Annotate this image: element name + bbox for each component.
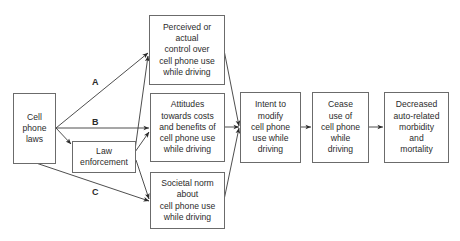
arrow-laws-to-enforcement: [56, 128, 71, 144]
node-intent-to-modify: Intent to modify cell phone use while dr…: [240, 92, 301, 163]
arrow-enforcement-to-norm: [136, 160, 149, 199]
node-law-enforcement: Law enforcement: [72, 141, 136, 173]
arrow-norm-to-intent: [224, 128, 239, 200]
node-perceived-control: Perceived or actual control over cell ph…: [149, 15, 225, 85]
edge-label-b: B: [92, 117, 99, 127]
node-cease-use: Cease use of cell phone while driving: [312, 92, 369, 163]
edge-label-c: C: [92, 187, 99, 197]
node-societal-norm: Societal norm about cell phone use while…: [150, 172, 225, 229]
node-decreased-morbidity: Decreased auto-related morbidity and mor…: [384, 92, 449, 163]
diagram-canvas: Cell phone laws Law enforcement Perceive…: [0, 0, 460, 241]
node-cell-phone-laws: Cell phone laws: [13, 93, 56, 164]
arrow-control-to-intent: [224, 50, 239, 126]
edge-label-a: A: [92, 77, 99, 87]
arrow-laws-to-control: [56, 53, 148, 128]
node-attitudes: Attitudes towards costs and benefits of …: [150, 93, 225, 162]
